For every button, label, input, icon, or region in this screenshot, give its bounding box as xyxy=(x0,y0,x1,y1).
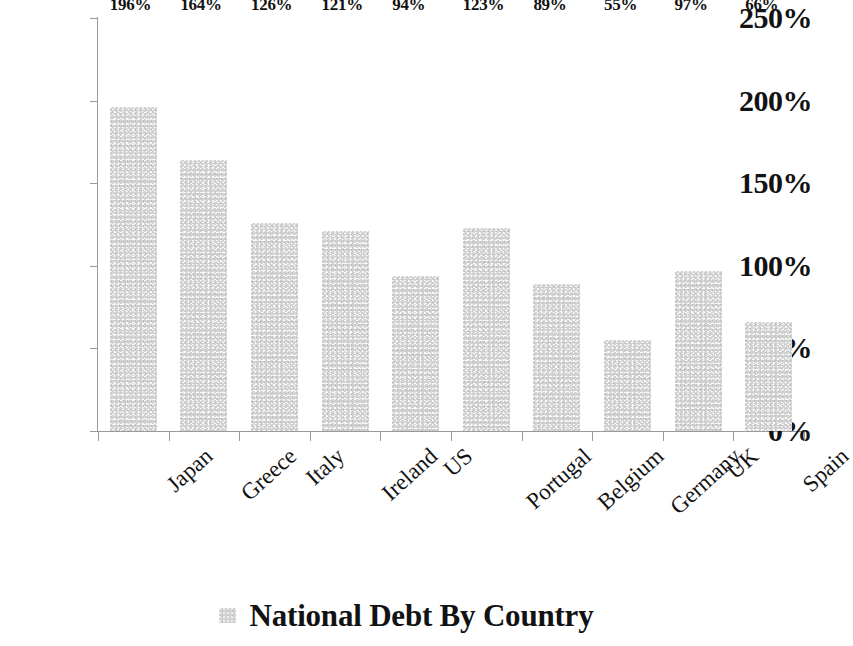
bar: 123% xyxy=(463,228,510,431)
bar-group: 196% xyxy=(110,18,157,431)
bar-group: 97% xyxy=(675,18,722,431)
y-axis-tick xyxy=(90,348,98,349)
bar: 196% xyxy=(110,107,157,431)
bar: 121% xyxy=(322,231,369,431)
x-axis-tick xyxy=(663,432,664,441)
x-axis-label: Greece xyxy=(237,444,301,505)
bar-value-label: 94% xyxy=(392,0,425,13)
bar: 89% xyxy=(533,284,580,431)
legend-swatch xyxy=(219,608,236,623)
y-axis-tick xyxy=(90,431,98,432)
bar: 94% xyxy=(392,276,439,431)
x-axis-label: US xyxy=(439,444,476,481)
bar: 164% xyxy=(180,160,227,431)
plot-area: 196%164%126%121%94%123%89%55%97%66% xyxy=(98,18,804,431)
chart-legend: National Debt By Country xyxy=(0,600,812,631)
bar-group: 164% xyxy=(180,18,227,431)
bar-value-label: 196% xyxy=(110,0,151,13)
x-axis-tick xyxy=(592,432,593,441)
bar-group: 66% xyxy=(745,18,792,431)
bar: 126% xyxy=(251,223,298,431)
x-axis-tick xyxy=(310,432,311,441)
y-axis-tick xyxy=(90,266,98,267)
bar: 97% xyxy=(675,271,722,431)
x-axis-label: Belgium xyxy=(593,444,667,514)
bar-group: 89% xyxy=(533,18,580,431)
bar-group: 126% xyxy=(251,18,298,431)
x-axis-tick xyxy=(169,432,170,441)
bar-group: 123% xyxy=(463,18,510,431)
y-axis-tick xyxy=(90,18,98,19)
x-axis-tick xyxy=(451,432,452,441)
bar-value-label: 89% xyxy=(533,0,566,13)
x-axis-tick xyxy=(733,432,734,441)
bar-value-label: 164% xyxy=(180,0,221,13)
x-axis-label: Spain xyxy=(798,444,852,496)
bar-value-label: 121% xyxy=(322,0,363,13)
bar: 66% xyxy=(745,322,792,431)
y-axis-tick xyxy=(90,183,98,184)
bar-value-label: 97% xyxy=(675,0,708,13)
bar-group: 55% xyxy=(604,18,651,431)
x-axis-label: Italy xyxy=(301,444,348,489)
x-axis-tick xyxy=(239,432,240,441)
x-axis-tick xyxy=(98,432,99,441)
bar: 55% xyxy=(604,340,651,431)
x-axis-label: Ireland xyxy=(378,444,442,505)
bar-value-label: 126% xyxy=(251,0,292,13)
legend-label: National Debt By Country xyxy=(250,600,594,631)
bar-value-label: 55% xyxy=(604,0,637,13)
bar-value-label: 123% xyxy=(463,0,504,13)
x-axis-label: Portugal xyxy=(522,444,595,513)
x-axis-label: Japan xyxy=(163,444,217,496)
bar-group: 94% xyxy=(392,18,439,431)
x-axis-tick xyxy=(522,432,523,441)
bar-value-label: 66% xyxy=(745,0,778,13)
bar-group: 121% xyxy=(322,18,369,431)
x-axis-tick xyxy=(380,432,381,441)
y-axis-tick xyxy=(90,101,98,102)
x-axis-tick xyxy=(804,432,805,441)
